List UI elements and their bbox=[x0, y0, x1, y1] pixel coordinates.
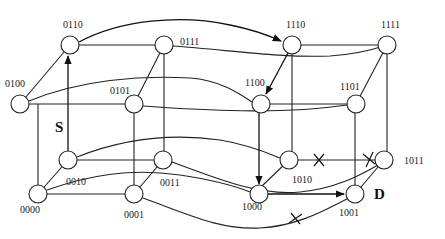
node-1011 bbox=[375, 151, 393, 169]
node-1110 bbox=[283, 36, 301, 54]
node-label-1000: 1000 bbox=[242, 201, 262, 212]
node-label-1110: 1110 bbox=[286, 19, 305, 30]
node-0110 bbox=[61, 36, 79, 54]
node-label-0110: 0110 bbox=[63, 19, 83, 30]
diagram-canvas: 0110011111101111010001011100110100100011… bbox=[0, 0, 445, 239]
node-0101 bbox=[125, 95, 143, 113]
edge-0010-1010 bbox=[77, 137, 280, 158]
node-label-0011: 0011 bbox=[160, 177, 180, 188]
node-1101 bbox=[347, 95, 365, 113]
node-label-1111: 1111 bbox=[381, 19, 400, 30]
node-label-1010: 1010 bbox=[292, 174, 312, 185]
node-0010 bbox=[59, 151, 77, 169]
node-1001 bbox=[346, 185, 364, 203]
node-1010 bbox=[280, 151, 298, 169]
node-0001 bbox=[125, 185, 143, 203]
edge-1101-1111 bbox=[356, 45, 387, 104]
node-label-1100: 1100 bbox=[245, 77, 265, 88]
node-0111 bbox=[155, 36, 173, 54]
edge-0101-1101 bbox=[143, 105, 347, 111]
node-0100 bbox=[11, 95, 29, 113]
node-label-0001: 0001 bbox=[124, 209, 144, 220]
source-label: S bbox=[55, 119, 63, 135]
fault-x-icon bbox=[289, 213, 302, 224]
destination-label: D bbox=[374, 186, 385, 202]
node-label-1101: 1101 bbox=[340, 81, 360, 92]
node-0011 bbox=[154, 151, 172, 169]
node-label-0111: 0111 bbox=[180, 36, 199, 47]
edge-0011-1011 bbox=[172, 162, 378, 193]
node-label-1011: 1011 bbox=[404, 155, 424, 166]
node-1100 bbox=[252, 95, 270, 113]
node-label-0100: 0100 bbox=[5, 78, 25, 89]
edge-0101-0111 bbox=[134, 45, 164, 104]
hypercube-diagram: 0110011111101111010001011100110100100011… bbox=[0, 0, 445, 239]
node-label-0101: 0101 bbox=[110, 85, 130, 96]
node-0000 bbox=[29, 185, 47, 203]
node-label-0000: 0000 bbox=[20, 204, 40, 215]
node-label-0010: 0010 bbox=[66, 176, 86, 187]
edge-0111-1111 bbox=[173, 45, 387, 56]
node-label-1001: 1001 bbox=[339, 207, 359, 218]
node-1111 bbox=[378, 36, 396, 54]
route-arrow-1110-1100 bbox=[266, 53, 288, 94]
